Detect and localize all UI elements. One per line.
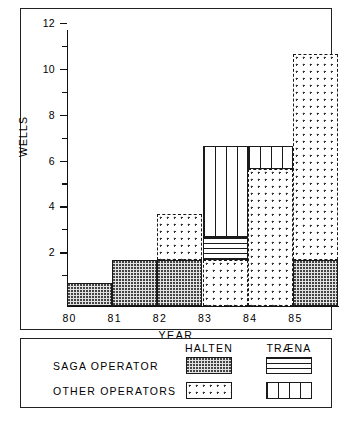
x-tick-label: 85 xyxy=(272,312,318,324)
y-tick-label: 6 xyxy=(15,156,55,167)
y-tick-major xyxy=(60,161,67,162)
y-tick-label: 8 xyxy=(15,110,55,121)
legend-row-label: OTHER OPERATORS xyxy=(53,385,176,397)
y-tick-major xyxy=(60,206,67,207)
legend-column-header: HALTEN xyxy=(164,342,254,354)
bar-segment xyxy=(293,54,338,260)
y-tick-label: 2 xyxy=(15,247,55,258)
legend-swatch xyxy=(186,357,232,374)
y-axis-title: WELLS xyxy=(17,116,29,157)
bar-segment xyxy=(203,260,248,306)
y-tick-major xyxy=(60,252,67,253)
bar-column xyxy=(203,31,248,306)
bar-column xyxy=(248,31,293,306)
bar-column xyxy=(112,31,157,306)
bar-segment xyxy=(293,260,338,306)
bar-segment xyxy=(203,237,248,260)
y-tick-label: 12 xyxy=(15,18,55,29)
y-tick-major xyxy=(60,23,67,24)
bar-column xyxy=(293,31,338,306)
bar-segment xyxy=(248,169,293,307)
plot-frame: WELLS YEAR 24681012 808182838485 xyxy=(20,8,332,330)
bar-column xyxy=(157,31,202,306)
x-tick-label: 82 xyxy=(137,312,183,324)
bar-segment xyxy=(112,260,157,306)
bar-segment xyxy=(248,146,293,169)
y-tick-label: 4 xyxy=(15,201,55,212)
figure-root: WELLS YEAR 24681012 808182838485 HALTENT… xyxy=(0,0,354,421)
plot-area xyxy=(67,31,338,306)
legend-swatch xyxy=(186,382,232,399)
legend-column-header: TRÆNA xyxy=(244,342,334,354)
x-tick-label: 84 xyxy=(227,312,273,324)
bar-column xyxy=(67,31,112,306)
x-axis-line xyxy=(67,306,339,307)
legend-row-label: SAGA OPERATOR xyxy=(53,360,159,372)
y-tick-label: 10 xyxy=(15,64,55,75)
bar-segment xyxy=(203,146,248,238)
bar-segment xyxy=(157,260,202,306)
bar-segment xyxy=(157,214,202,260)
legend-swatch xyxy=(266,357,312,374)
x-tick-label: 83 xyxy=(182,312,228,324)
y-tick-major xyxy=(60,69,67,70)
bar-segment xyxy=(67,283,112,306)
legend-frame: HALTENTRÆNASAGA OPERATOROTHER OPERATORS xyxy=(20,338,332,408)
y-tick-major xyxy=(60,115,67,116)
x-tick-label: 81 xyxy=(92,312,138,324)
x-tick-label: 80 xyxy=(47,312,93,324)
legend-swatch xyxy=(266,382,312,399)
